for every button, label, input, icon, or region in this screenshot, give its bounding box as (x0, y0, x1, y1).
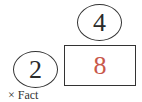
factor-left-value: 2 (29, 55, 42, 85)
product-value: 8 (94, 51, 107, 81)
fact-caption: × Fact (8, 88, 38, 102)
factor-top-ellipse: 4 (77, 4, 122, 41)
product-box: 8 (64, 45, 136, 86)
factor-left-ellipse: 2 (13, 51, 58, 88)
factor-top-value: 4 (93, 8, 106, 38)
